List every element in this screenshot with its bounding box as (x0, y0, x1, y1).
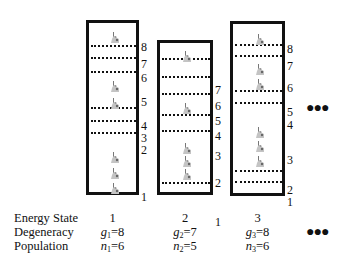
sublevel-boundary-line (162, 93, 210, 95)
particle-icon (254, 125, 266, 138)
energy-state-3-box (230, 21, 285, 196)
sublevel-boundary-line (91, 57, 136, 59)
particle-icon (109, 96, 121, 109)
particle-icon (181, 101, 193, 114)
row-label-population: Population (14, 239, 68, 253)
sublevel-number-label: 1 (215, 216, 221, 228)
sublevel-number-label: 6 (141, 72, 147, 84)
row-label-energy-state: Energy State (14, 211, 78, 225)
sublevel-number-label: 1 (287, 196, 293, 208)
sublevel-number-label: 8 (287, 43, 293, 55)
sublevel-boundary-line (235, 170, 282, 172)
sublevel-number-label: 2 (141, 144, 147, 156)
sublevel-number-label: 7 (215, 84, 221, 96)
sublevel-number-label: 6 (287, 82, 293, 94)
sublevel-number-label: 7 (141, 58, 147, 70)
particle-icon (254, 77, 266, 90)
sublevel-number-label: 1 (141, 191, 147, 203)
ellipsis-more-states: ●●● (306, 100, 328, 116)
ellipsis-more-columns: ●●● (306, 224, 328, 240)
sublevel-boundary-line (162, 76, 210, 78)
sublevel-number-label: 3 (287, 154, 293, 166)
sublevel-boundary-line (235, 102, 282, 104)
sublevel-number-label: 7 (287, 60, 293, 72)
sublevel-number-label: 6 (215, 100, 221, 112)
particle-icon (109, 166, 121, 179)
population-value: n2=5 (160, 239, 210, 257)
particle-icon (181, 141, 193, 154)
particle-icon (109, 181, 121, 194)
energy-state-1-box (86, 20, 139, 195)
sublevel-boundary-line (91, 45, 136, 47)
particle-icon (109, 150, 121, 163)
particle-icon (254, 154, 266, 167)
sublevel-boundary-line (91, 120, 136, 122)
sublevel-boundary-line (235, 55, 282, 57)
sublevel-boundary-line (91, 71, 136, 73)
population-value: n1=6 (88, 239, 138, 257)
particle-icon (254, 32, 266, 45)
population-value: n3=6 (233, 239, 283, 257)
energy-state-number: 1 (88, 211, 138, 225)
row-label-degeneracy: Degeneracy (14, 225, 74, 239)
sublevel-number-label: 3 (215, 150, 221, 162)
sublevel-number-label: 5 (215, 115, 221, 127)
particle-icon (109, 79, 121, 92)
sublevel-number-label: 5 (287, 106, 293, 118)
sublevel-number-label: 5 (141, 96, 147, 108)
sublevel-number-label: 4 (287, 119, 293, 131)
particle-icon (254, 139, 266, 152)
particle-icon (181, 167, 193, 180)
sublevel-number-label: 4 (215, 130, 221, 142)
particle-icon (254, 62, 266, 75)
sublevel-number-label: 8 (141, 41, 147, 53)
energy-state-number: 3 (233, 211, 283, 225)
energy-state-number: 2 (160, 211, 210, 225)
particle-icon (109, 30, 121, 43)
energy-state-2-box (157, 40, 213, 195)
particle-icon (181, 49, 193, 62)
sublevel-boundary-line (91, 132, 136, 134)
sublevel-boundary-line (162, 182, 210, 184)
sublevel-boundary-line (162, 130, 210, 132)
sublevel-boundary-line (235, 181, 282, 183)
sublevel-number-label: 2 (215, 177, 221, 189)
particle-icon (181, 154, 193, 167)
